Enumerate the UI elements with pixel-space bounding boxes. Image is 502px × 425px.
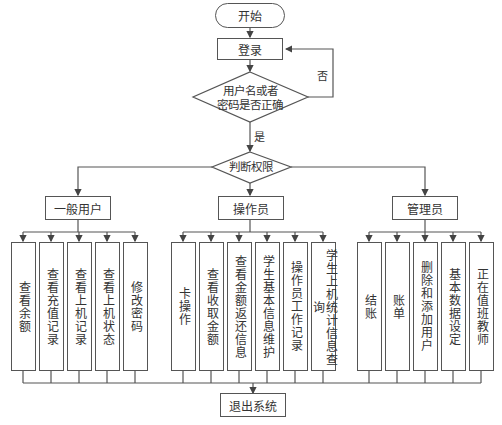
func-operator-4: 操作员工作记录 bbox=[283, 242, 308, 371]
func-general-3: 查看上机状态 bbox=[95, 242, 120, 371]
func-general-4: 修改密码 bbox=[123, 242, 148, 371]
func-label: 查看余额 bbox=[17, 281, 31, 333]
func-general-2: 查看上机记录 bbox=[67, 242, 92, 371]
credential-check-text: 用户名或者 密码是否正确 bbox=[205, 84, 295, 112]
func-operator-2: 查看金额返还信息 bbox=[227, 242, 252, 371]
func-label: 操作员工作记录 bbox=[289, 261, 303, 352]
credential-check-line-1: 用户名或者 bbox=[205, 84, 295, 98]
func-general-0: 查看余额 bbox=[11, 242, 36, 371]
func-label: 学生上机统计信息查询 bbox=[311, 245, 337, 370]
role-general-user: 一般用户 bbox=[45, 196, 111, 220]
func-label: 卡操作 bbox=[177, 287, 191, 326]
func-operator-0: 卡操作 bbox=[171, 242, 196, 371]
func-operator-3: 学生基本信息维护 bbox=[255, 242, 280, 371]
login-node: 登录 bbox=[217, 38, 283, 60]
exit-system-label: 退出系统 bbox=[229, 397, 277, 414]
exit-system-node: 退出系统 bbox=[220, 393, 286, 417]
role-admin-label: 管理员 bbox=[407, 200, 443, 217]
func-label: 查看收取金额 bbox=[205, 268, 219, 346]
func-label: 查看上机记录 bbox=[73, 268, 87, 346]
role-admin: 管理员 bbox=[392, 196, 458, 220]
func-admin-2: 删除和添加用户 bbox=[413, 242, 438, 371]
func-label: 账单 bbox=[391, 294, 405, 320]
func-label: 删除和添加用户 bbox=[419, 261, 433, 352]
func-label: 结账 bbox=[363, 294, 377, 320]
credential-check-line-2: 密码是否正确 bbox=[205, 98, 295, 112]
func-label: 修改密码 bbox=[129, 281, 143, 333]
func-admin-0: 结账 bbox=[357, 242, 382, 371]
func-admin-3: 基本数据设定 bbox=[441, 242, 466, 371]
start-label: 开始 bbox=[238, 7, 262, 24]
func-label: 学生基本信息维护 bbox=[261, 255, 275, 359]
func-operator-1: 查看收取金额 bbox=[199, 242, 224, 371]
login-label: 登录 bbox=[238, 41, 262, 58]
func-label: 基本数据设定 bbox=[447, 268, 461, 346]
func-label: 查看上机状态 bbox=[101, 268, 115, 346]
yes-label: 是 bbox=[254, 128, 265, 144]
role-operator-label: 操作员 bbox=[233, 200, 269, 217]
func-general-1: 查看充值记录 bbox=[39, 242, 64, 371]
func-label: 正在值班教师 bbox=[475, 268, 489, 346]
role-operator: 操作员 bbox=[218, 196, 284, 220]
func-admin-1: 账单 bbox=[385, 242, 410, 371]
role-check-label: 判断权限 bbox=[229, 160, 273, 174]
role-general-user-label: 一般用户 bbox=[54, 200, 102, 217]
func-label: 查看金额返还信息 bbox=[233, 255, 247, 359]
func-operator-5: 学生上机统计信息查询 bbox=[311, 242, 336, 371]
func-label: 查看充值记录 bbox=[45, 268, 59, 346]
role-check-text: 判断权限 bbox=[220, 160, 282, 174]
no-label: 否 bbox=[317, 67, 328, 83]
start-node: 开始 bbox=[215, 3, 285, 28]
func-admin-4: 正在值班教师 bbox=[469, 242, 494, 371]
